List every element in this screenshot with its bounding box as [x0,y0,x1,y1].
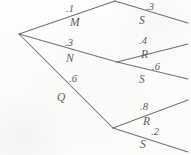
branch-n-s-node-label: S [139,74,145,86]
branch-n-s-probability: .6 [152,62,160,73]
diagram-canvas: .1M.3N.6Q.3S.4R.6S.8R.2S [0,0,191,155]
branch-q-s-node-label: S [140,139,146,151]
branch-n-node-label: N [66,53,74,65]
branch-q-r-line [113,100,188,128]
tree-branches-svg [0,0,191,155]
branch-m-s-node-label: S [139,15,145,27]
branch-q-node-label: Q [57,92,66,104]
branch-m-s-probability: .3 [146,2,154,13]
branch-line-group [19,1,188,152]
branch-m-node-label: M [70,17,80,29]
branch-n-r-node-label: R [141,49,148,61]
branch-n-r-line [117,44,188,62]
branch-q-r-node-label: R [143,116,150,128]
branch-n-probability: .3 [65,38,73,49]
branch-m-probability: .1 [66,4,74,15]
branch-n-r-probability: .4 [139,36,147,47]
branch-q-r-probability: .8 [140,102,148,113]
branch-q-s-probability: .2 [151,127,159,138]
branch-q-probability: .6 [69,74,77,85]
